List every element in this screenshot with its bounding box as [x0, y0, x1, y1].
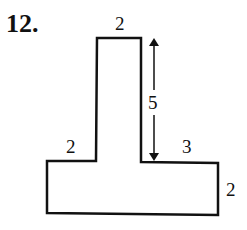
label-left-ledge: 2	[66, 136, 76, 157]
problem-number: 12.	[6, 9, 39, 38]
inverted-t-shape	[47, 38, 218, 215]
label-base-height: 2	[226, 179, 236, 200]
label-right-ledge: 3	[182, 136, 192, 157]
label-stem-height: 5	[148, 92, 158, 113]
label-stem-top-width: 2	[115, 13, 125, 34]
figure-canvas: 12. 2 5 2 3 2	[0, 0, 247, 230]
